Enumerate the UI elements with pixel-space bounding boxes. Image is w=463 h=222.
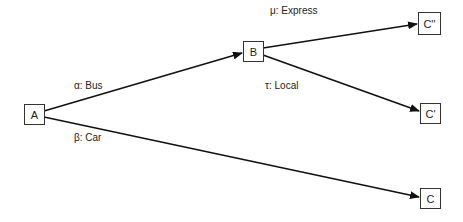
node-c-prime-label: C' xyxy=(425,108,435,120)
edge-label-car: β: Car xyxy=(74,132,101,143)
edge-label-express: μ: Express xyxy=(270,5,317,16)
node-a: A xyxy=(24,104,45,125)
edge-b-c2 xyxy=(263,24,417,48)
node-c: C xyxy=(420,188,441,209)
edge-label-local: τ: Local xyxy=(265,80,298,91)
node-c-label: C xyxy=(427,193,435,205)
node-b: B xyxy=(243,41,264,62)
node-a-label: A xyxy=(31,109,38,121)
diagram-canvas xyxy=(0,0,463,222)
node-c-double-prime-label: C'' xyxy=(423,18,435,30)
node-c-prime: C' xyxy=(420,103,441,124)
node-b-label: B xyxy=(250,46,257,58)
node-c-double-prime: C'' xyxy=(418,12,441,35)
edge-label-bus: α: Bus xyxy=(74,80,103,91)
edge-a-c xyxy=(44,117,419,197)
